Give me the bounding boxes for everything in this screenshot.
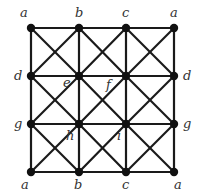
vertex-r1c1 [75, 72, 83, 80]
vertex-label-r1c0: d [14, 68, 22, 83]
vertex-r2c3 [170, 120, 178, 128]
vertex-label-r2c1: h [66, 128, 74, 143]
vertex-label-r0c0: a [20, 5, 28, 20]
vertex-r3c1 [75, 168, 83, 176]
vertex-label-r3c3: a [174, 177, 182, 192]
vertex-label-r3c2: c [122, 177, 130, 192]
vertex-label-r3c1: b [74, 177, 82, 192]
vertex-label-r0c1: b [75, 5, 83, 20]
grid-graph: abcadefdghigabca [0, 0, 200, 196]
vertex-label-r0c3: a [170, 5, 178, 20]
vertex-label-r1c3: d [183, 68, 191, 83]
vertex-r0c0 [27, 24, 35, 32]
vertex-r2c0 [27, 120, 35, 128]
vertex-r1c0 [27, 72, 35, 80]
vertex-label-r2c3: g [183, 116, 191, 131]
vertex-label-r2c0: g [14, 116, 22, 131]
vertex-r1c3 [170, 72, 178, 80]
vertex-r2c1 [75, 120, 83, 128]
vertex-r3c0 [27, 168, 35, 176]
vertex-r3c3 [170, 168, 178, 176]
vertex-label-r2c2: i [117, 128, 121, 143]
vertex-r0c3 [170, 24, 178, 32]
vertex-r1c2 [122, 72, 130, 80]
vertex-r0c1 [75, 24, 83, 32]
vertex-r0c2 [122, 24, 130, 32]
vertex-label-r3c0: a [21, 177, 29, 192]
vertex-r3c2 [122, 168, 130, 176]
vertex-label-r1c1: e [63, 75, 71, 90]
vertex-r2c2 [122, 120, 130, 128]
vertex-label-r0c2: c [122, 5, 130, 20]
